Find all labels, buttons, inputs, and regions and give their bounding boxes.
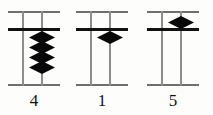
- earth-bead: [29, 61, 55, 74]
- earth-bead: [97, 31, 123, 44]
- column-value-label: 4: [8, 92, 60, 109]
- rod-left: [161, 11, 163, 86]
- rod-left: [22, 11, 24, 86]
- top-frame-bar: [8, 11, 60, 13]
- top-frame-bar: [147, 11, 199, 13]
- bottom-frame-bar: [76, 84, 128, 86]
- bottom-frame-bar: [147, 84, 199, 86]
- top-frame-bar: [76, 11, 128, 13]
- column-value-label: 1: [76, 92, 128, 109]
- abacus-column: 4: [8, 0, 60, 115]
- crossbar: [76, 28, 128, 31]
- abacus-figure: 415: [0, 0, 213, 115]
- rod-right: [109, 11, 111, 86]
- bottom-frame-bar: [8, 84, 60, 86]
- crossbar: [147, 28, 199, 31]
- rod-left: [90, 11, 92, 86]
- abacus-column: 5: [147, 0, 199, 115]
- crossbar: [8, 28, 60, 31]
- abacus-column: 1: [76, 0, 128, 115]
- column-value-label: 5: [147, 92, 199, 109]
